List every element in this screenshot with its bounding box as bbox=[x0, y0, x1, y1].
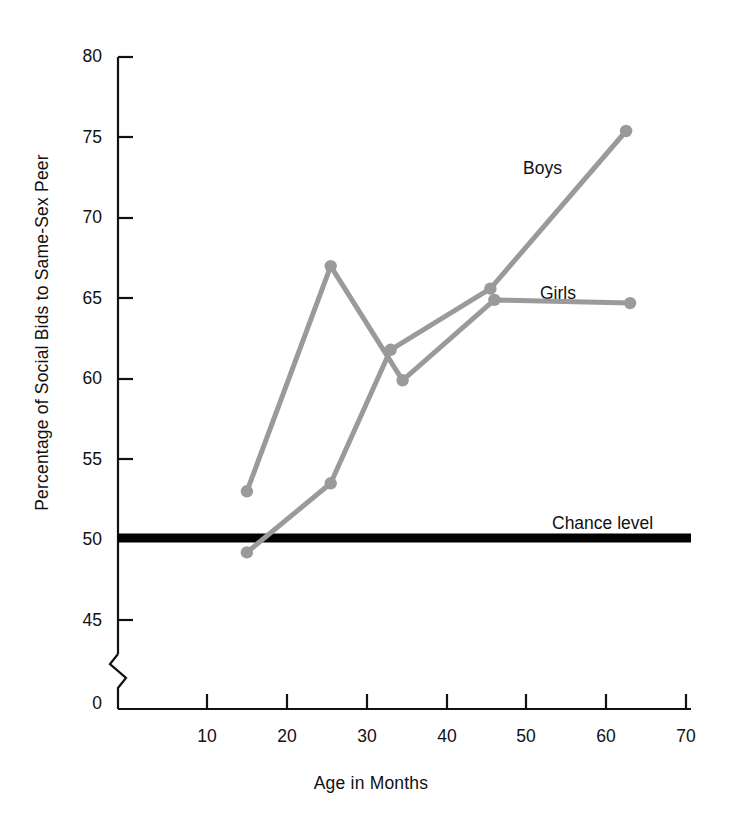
data-point bbox=[396, 374, 408, 386]
series-layer bbox=[241, 125, 637, 559]
data-point bbox=[241, 485, 253, 497]
data-point bbox=[325, 260, 337, 272]
data-point bbox=[384, 344, 396, 356]
data-point bbox=[624, 297, 636, 309]
data-point bbox=[484, 282, 496, 294]
data-point bbox=[241, 546, 253, 558]
series-boys bbox=[241, 125, 633, 559]
data-point bbox=[325, 477, 337, 489]
reference-line-chance-level bbox=[118, 534, 691, 543]
series-line-girls bbox=[247, 266, 630, 491]
data-point bbox=[620, 125, 632, 137]
series-girls bbox=[241, 260, 637, 498]
chart-figure: Percentage of Social Bids to Same-Sex Pe… bbox=[0, 0, 742, 836]
chart-plot-area bbox=[0, 0, 742, 836]
data-point bbox=[488, 294, 500, 306]
axis-break-marker bbox=[110, 654, 126, 709]
